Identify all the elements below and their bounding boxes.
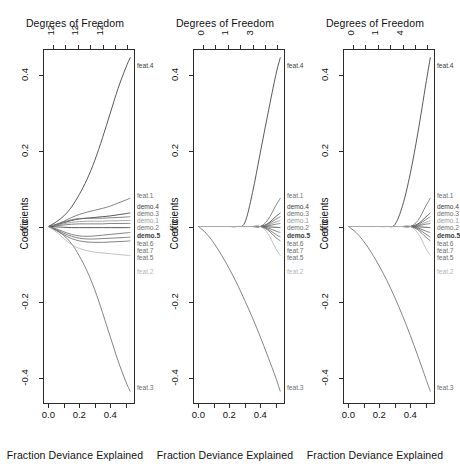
- x-tick-label: 0.2: [223, 409, 236, 420]
- y-tick-label: -0.2: [169, 288, 180, 316]
- x-axis-title: Fraction Deviance Explained: [300, 449, 450, 461]
- x-tick: [64, 404, 65, 408]
- x-tick-label: 0.4: [104, 409, 117, 420]
- y-tick-label: -0.4: [169, 363, 180, 391]
- x-tick-label: 0.2: [73, 409, 86, 420]
- degrees-of-freedom-tick-label: 1: [219, 30, 230, 35]
- x-tick: [426, 404, 427, 408]
- x-tick: [379, 404, 380, 408]
- curve-feat.4: [48, 57, 130, 226]
- curve-feat.4: [348, 57, 430, 226]
- degrees-of-freedom-tick-label: 4: [394, 30, 405, 35]
- degrees-of-freedom-tick-label: 0: [194, 30, 205, 35]
- x-tick: [48, 404, 49, 408]
- curve-feat.1: [198, 198, 280, 227]
- coefficient-paths: [43, 49, 135, 404]
- x-tick: [410, 404, 411, 408]
- series-endpoint-label-feat.4: feat.4: [437, 63, 454, 70]
- degrees-of-freedom-tick-label: 12: [69, 25, 80, 36]
- x-tick: [260, 404, 261, 408]
- x-tick-label: 0.0: [42, 409, 55, 420]
- y-tick-label: 0.0: [169, 212, 180, 240]
- y-tick-label: -0.4: [19, 363, 30, 391]
- curve-feat.1: [48, 198, 130, 226]
- top-axis-title: Degrees of Freedom: [150, 17, 300, 29]
- x-tick: [229, 404, 230, 408]
- x-tick: [245, 404, 246, 408]
- curve-feat.1: [348, 198, 430, 227]
- curve-feat.3: [348, 227, 430, 392]
- x-tick: [110, 404, 111, 408]
- curve-demo.5: [48, 227, 130, 228]
- y-tick-label: 0.4: [319, 61, 330, 89]
- series-endpoint-label-feat.2: feat.2: [437, 269, 454, 276]
- curve-feat.3: [198, 227, 280, 392]
- coefficient-path-panel-3: Degrees of FreedomFraction Deviance Expl…: [300, 0, 450, 472]
- coefficient-paths: [343, 49, 435, 404]
- curve-feat.5: [48, 227, 130, 243]
- degrees-of-freedom-tick-label: 3: [244, 30, 255, 35]
- x-tick: [126, 404, 127, 408]
- y-tick-label: 0.2: [19, 137, 30, 165]
- x-axis-title: Fraction Deviance Explained: [0, 449, 150, 461]
- x-tick-label: 0.4: [404, 409, 417, 420]
- coefficient-paths: [193, 49, 285, 404]
- y-tick-label: 0.0: [19, 212, 30, 240]
- x-tick: [95, 404, 96, 408]
- series-endpoint-label-feat.5: feat.5: [437, 255, 454, 262]
- top-axis-title: Degrees of Freedom: [300, 17, 450, 29]
- x-tick: [364, 404, 365, 408]
- x-tick: [348, 404, 349, 408]
- x-tick: [198, 404, 199, 408]
- degrees-of-freedom-tick-label: 12: [44, 25, 55, 36]
- series-endpoint-label-demo.5: demo.5: [437, 233, 460, 240]
- x-tick-label: 0.0: [342, 409, 355, 420]
- coefficient-path-panel-2: Degrees of FreedomFraction Deviance Expl…: [150, 0, 300, 472]
- x-tick: [276, 404, 277, 408]
- y-tick-label: 0.2: [319, 137, 330, 165]
- x-tick: [79, 404, 80, 408]
- y-tick-label: -0.4: [319, 363, 330, 391]
- series-endpoint-label-feat.3: feat.3: [437, 385, 454, 392]
- x-tick-label: 0.2: [373, 409, 386, 420]
- coefficient-path-panel-1: Degrees of FreedomFraction Deviance Expl…: [0, 0, 150, 472]
- y-tick-label: 0.4: [169, 61, 180, 89]
- y-tick-label: -0.2: [19, 288, 30, 316]
- x-tick: [214, 404, 215, 408]
- curve-feat.4: [198, 57, 280, 226]
- degrees-of-freedom-tick-label: 1: [369, 30, 380, 35]
- x-axis-title: Fraction Deviance Explained: [150, 449, 300, 461]
- series-endpoint-label-feat.1: feat.1: [437, 193, 454, 200]
- y-tick-label: 0.0: [319, 212, 330, 240]
- x-tick: [395, 404, 396, 408]
- x-tick-label: 0.4: [254, 409, 267, 420]
- degrees-of-freedom-tick-label: 0: [344, 30, 355, 35]
- y-tick-label: 0.4: [19, 61, 30, 89]
- degrees-of-freedom-tick-label: 12: [94, 25, 105, 36]
- y-tick-label: 0.2: [169, 137, 180, 165]
- y-tick-label: -0.2: [319, 288, 330, 316]
- series-endpoint-label-demo.2: demo.2: [437, 225, 459, 232]
- x-tick-label: 0.0: [192, 409, 205, 420]
